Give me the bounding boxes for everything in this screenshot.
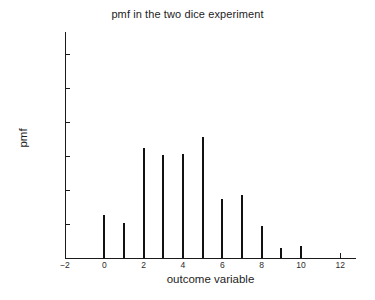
x-tick-label: 6 (210, 260, 234, 270)
x-tick-mark (65, 253, 66, 258)
stem-bar (221, 199, 223, 258)
stem-bar (103, 215, 105, 258)
chart-figure: pmf in the two dice experiment 00.050.10… (0, 0, 375, 300)
x-tick-label: 8 (250, 260, 274, 270)
x-tick-label: −2 (53, 260, 77, 270)
stem-bar (162, 155, 164, 258)
y-tick-mark (66, 54, 70, 55)
stem-bar (143, 148, 145, 258)
y-axis-label: pmf (17, 108, 29, 168)
x-tick-label: 10 (289, 260, 313, 270)
stem-bar (123, 223, 125, 258)
stem-bar (261, 226, 263, 258)
stem-bar (202, 137, 204, 258)
y-tick-mark (66, 122, 70, 123)
y-tick-mark (66, 190, 70, 191)
stem-bar (182, 154, 184, 258)
x-tick-label: 2 (132, 260, 156, 270)
y-tick-mark (66, 88, 70, 89)
stem-bar (300, 246, 302, 258)
stem-bar (241, 195, 243, 258)
y-tick-mark (66, 156, 70, 157)
x-tick-label: 12 (328, 260, 352, 270)
stem-bar (280, 248, 282, 258)
chart-title: pmf in the two dice experiment (0, 8, 375, 20)
x-axis-label: outcome variable (65, 273, 356, 285)
x-tick-label: 4 (171, 260, 195, 270)
x-tick-mark (340, 253, 341, 258)
x-tick-label: 0 (92, 260, 116, 270)
y-tick-mark (66, 258, 70, 259)
y-tick-mark (66, 224, 70, 225)
